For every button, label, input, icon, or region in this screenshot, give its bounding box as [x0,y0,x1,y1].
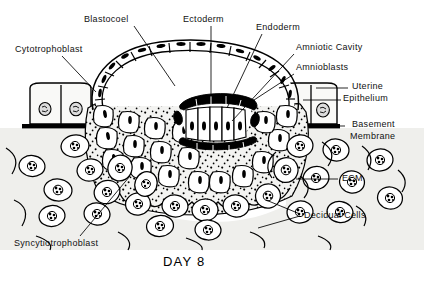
uterine-epithelium-left [30,83,91,124]
label-basement-membrane: Basement [352,119,395,130]
label-blastocoel: Blastocoel [84,14,129,25]
figure-caption-day: DAY 8 [163,254,205,269]
label-uterine-epithelium-line2: Epithelium [343,93,388,104]
label-decidual-cells: Decidual Cells [304,210,366,221]
label-uterine-epithelium: Uterine [352,81,383,92]
label-ectoderm: Ectoderm [183,14,224,25]
label-amniotic-cavity: Amniotic Cavity [296,42,363,53]
label-cytotrophoblast: Cytotrophoblast [15,44,83,55]
ectoderm-layer [186,107,246,141]
label-syncytiotrophoblast: Syncytiotrophoblast [14,238,98,249]
label-ecm: ECM [342,173,363,184]
label-basement-membrane-line2: Membrane [350,131,395,142]
label-endoderm: Endoderm [256,22,300,33]
label-amnioblasts: Amnioblasts [296,62,348,73]
